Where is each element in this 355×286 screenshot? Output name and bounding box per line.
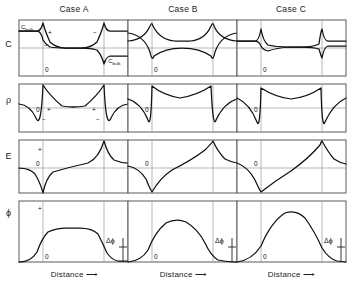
axis-zero-label: 0 [254,160,258,167]
figure-space-charge-profiles: Case A Case B Case C C ρ E ϕ Distance ⟶ … [0,0,355,286]
axis-zero-label: 0 [145,106,149,113]
axis-zero-label: 0 [154,66,158,73]
axis-zero-label: 0 [263,66,267,73]
panel-c-case-c: 0 [237,20,346,76]
sign-plus-right: + [92,106,96,113]
delta-phi-label: Δϕ [106,237,115,245]
panel-c-case-b: 0 [128,20,237,76]
delta-phi-label: Δϕ [215,237,224,245]
axis-zero-label: 0 [145,160,149,167]
sign-plus: + [38,146,42,153]
panel-c-case-a: 0 + − − − Cbulk + Cbulk [19,20,128,76]
panel-e-case-a: + 0 [19,140,128,193]
plot-canvas: 0 + − − − Cbulk + Cbulk 0 0 [0,0,355,286]
panel-frame [128,201,237,262]
panel-phi-case-c: 0 Δϕ [237,201,346,262]
panel-e-case-b: 0 [128,140,237,193]
panel-e-case-c: 0 [237,140,346,193]
sign-minus-right: − [91,45,95,52]
panel-phi-case-b: 0 Δϕ [128,201,237,262]
axis-zero-label: 0 [45,66,49,73]
axis-zero-label: 0 [254,106,258,113]
panel-phi-case-a: + 0 Δϕ [19,201,128,262]
axis-zero-label: 0 [36,160,40,167]
panel-rho-case-c: 0 [237,84,346,132]
panel-frame [237,201,346,262]
sign-plus-left: + [47,106,51,113]
sign-plus: + [38,205,42,212]
sign-minus-left: − [42,116,46,123]
panel-frame [19,201,128,262]
sign-plus-right: − [93,29,97,36]
sign-plus-left: + [48,29,52,36]
axis-zero-label: 0 [154,253,158,260]
panel-rho-case-a: 0 + + − − [19,84,128,132]
panel-rho-case-b: 0 [128,84,237,132]
sign-minus-right: − [96,116,100,123]
axis-zero-label: 0 [263,253,267,260]
axis-zero-label: 0 [36,106,40,113]
delta-phi-label: Δϕ [324,237,333,245]
axis-zero-label: 0 [45,253,49,260]
sign-minus-left: − [44,42,48,49]
